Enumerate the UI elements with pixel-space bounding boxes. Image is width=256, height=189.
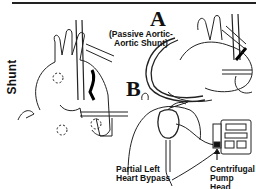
centrifugal-pump-console <box>213 120 251 160</box>
panel-a-caption-line2: Aortic Shunt) <box>114 39 168 48</box>
panel-b-letter: B <box>126 78 141 100</box>
label-centrifugal-pump-head-line2: Pump Head <box>210 174 256 189</box>
panel-a-letter: A <box>150 8 166 30</box>
label-partial-left-heart-bypass-line2: Heart Bypass <box>116 174 170 183</box>
